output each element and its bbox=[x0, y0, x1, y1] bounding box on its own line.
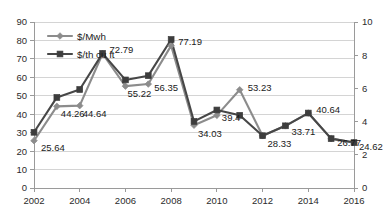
axis-right-tick-label: 10 bbox=[362, 16, 373, 27]
data-label: 77.19 bbox=[178, 36, 202, 47]
data-point-marker bbox=[145, 73, 151, 79]
legend-marker bbox=[57, 33, 64, 40]
data-point-marker bbox=[123, 77, 129, 83]
legend-label: $/th cu ft bbox=[77, 49, 115, 60]
axis-left-tick-label: 10 bbox=[16, 164, 27, 175]
data-point-marker bbox=[260, 133, 266, 139]
data-label: 25.64 bbox=[41, 142, 65, 153]
axis-left-tick-label: 90 bbox=[16, 16, 27, 27]
data-label: 53.23 bbox=[248, 82, 272, 93]
axis-x-tick-label: 2016 bbox=[343, 195, 364, 206]
data-point-marker bbox=[305, 110, 311, 116]
axis-left-tick-label: 30 bbox=[16, 127, 27, 138]
axis-right-tick-label: 6 bbox=[362, 83, 367, 94]
axis-x-tick-label: 2006 bbox=[115, 195, 136, 206]
data-label: 40.64 bbox=[316, 104, 340, 115]
data-label: 28.33 bbox=[268, 138, 292, 149]
legend-marker bbox=[57, 51, 63, 57]
axis-x-tick-label: 2008 bbox=[161, 195, 182, 206]
axis-left-tick-label: 40 bbox=[16, 109, 27, 120]
dual-axis-line-chart: 0102030405060708090024681020022004200620… bbox=[0, 0, 388, 218]
data-label: 55.22 bbox=[127, 88, 151, 99]
axis-left-tick-label: 50 bbox=[16, 90, 27, 101]
data-point-marker bbox=[77, 87, 83, 93]
axis-x-tick-label: 2002 bbox=[23, 195, 44, 206]
data-label: 33.71 bbox=[291, 126, 315, 137]
axis-right-tick-label: 4 bbox=[362, 116, 367, 127]
data-label: 34.03 bbox=[198, 128, 222, 139]
data-label: 56.35 bbox=[154, 82, 178, 93]
data-label: 44.64 bbox=[83, 108, 107, 119]
axis-left-tick-label: 0 bbox=[22, 182, 27, 193]
data-point-marker bbox=[54, 95, 60, 101]
axis-left-tick-label: 80 bbox=[16, 35, 27, 46]
axis-x-tick-label: 2004 bbox=[69, 195, 90, 206]
axis-left-tick-label: 20 bbox=[16, 146, 27, 157]
axis-left-tick-label: 60 bbox=[16, 72, 27, 83]
data-point-marker bbox=[168, 37, 174, 43]
data-point-marker bbox=[328, 136, 334, 142]
data-point-marker bbox=[191, 119, 197, 125]
data-label: 24.62 bbox=[359, 141, 383, 152]
axis-x-tick-label: 2012 bbox=[252, 195, 273, 206]
chart-canvas: 0102030405060708090024681020022004200620… bbox=[0, 0, 388, 218]
axis-right-tick-label: 0 bbox=[362, 182, 367, 193]
data-point-marker bbox=[283, 123, 289, 129]
axis-x-tick-label: 2010 bbox=[206, 195, 227, 206]
axis-right-tick-label: 8 bbox=[362, 50, 367, 61]
data-label: 26.77 bbox=[337, 137, 361, 148]
data-label: 44.26 bbox=[61, 108, 85, 119]
data-point-marker bbox=[31, 129, 37, 135]
legend-label: $/Mwh bbox=[77, 31, 106, 42]
data-point-marker bbox=[214, 107, 220, 113]
axis-left-tick-label: 70 bbox=[16, 53, 27, 64]
axis-x-tick-label: 2014 bbox=[298, 195, 319, 206]
data-label: 39.4 bbox=[222, 112, 241, 123]
